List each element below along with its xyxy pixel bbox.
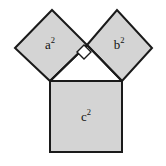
figure-container: a2 b2 c2	[0, 0, 166, 166]
label-a-exponent: 2	[51, 35, 55, 45]
pythagorean-diagram: a2 b2 c2	[0, 0, 166, 166]
label-b-exponent: 2	[120, 35, 124, 45]
label-c-exponent: 2	[87, 107, 91, 117]
